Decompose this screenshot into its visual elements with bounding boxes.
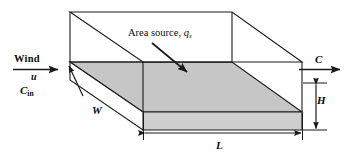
slab-front-face [143, 112, 302, 130]
outflow-concentration-label: C [315, 54, 322, 65]
box-model-figure: Wind u Cin Area source, qs C H W L [0, 0, 344, 162]
inflow-concentration-label: Cin [20, 85, 34, 97]
box-model-drawing [0, 0, 344, 162]
height-dimension [303, 83, 327, 130]
width-label: W [92, 105, 102, 116]
area-source-label: Area source, qs [128, 28, 192, 40]
wind-label: Wind [14, 54, 40, 65]
length-label: L [216, 140, 223, 151]
height-label: H [317, 95, 326, 106]
inflow-concentration-subscript: in [27, 89, 33, 98]
area-source-text: Area source, [128, 27, 184, 38]
area-source-subscript: s [189, 32, 192, 40]
wind-speed-label: u [31, 72, 37, 82]
